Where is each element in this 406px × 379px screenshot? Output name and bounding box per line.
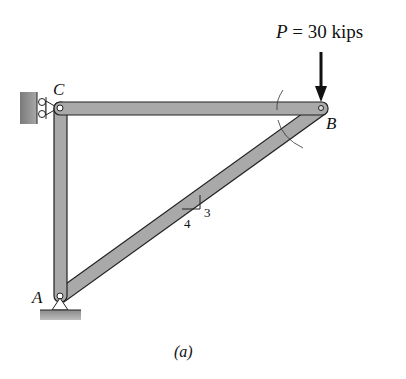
- wall-support: [20, 92, 37, 124]
- svg-text:P = 30 kips: P = 30 kips: [275, 21, 363, 42]
- slope-run-label: 4: [184, 216, 191, 231]
- member-ca: [54, 102, 67, 302]
- ground: [40, 310, 81, 320]
- truss-diagram: P = 30 kips C B A 3 4 (a): [0, 0, 406, 379]
- slope-rise-label: 3: [204, 205, 211, 220]
- figure-caption: (a): [174, 343, 193, 361]
- pin-c: [57, 105, 63, 111]
- member-cb: [54, 102, 328, 115]
- load-arrow-head: [315, 86, 327, 102]
- member-ab: [56, 103, 325, 302]
- joint-label-a: A: [31, 288, 43, 307]
- load-symbol: P: [275, 21, 288, 42]
- joint-label-b: B: [326, 114, 337, 133]
- pin-b: [319, 106, 324, 111]
- joint-label-c: C: [53, 80, 65, 99]
- load-value: = 30 kips: [288, 21, 364, 42]
